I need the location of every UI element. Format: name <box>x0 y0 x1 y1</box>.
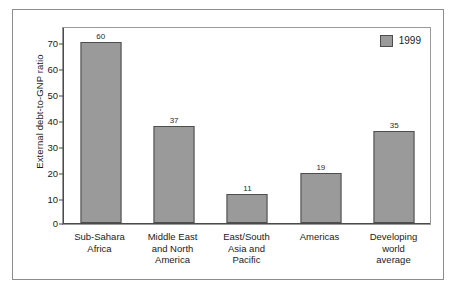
bar-value-label: 35 <box>390 122 399 130</box>
plot-area: 70 60 50 40 30 20 10 0 1999 60 37 <box>62 27 431 225</box>
y-tick-mark-0 <box>59 224 63 225</box>
x-label-line: Sub-Sahara <box>63 231 136 243</box>
bar-developing-world-average[interactable]: 35 <box>374 131 415 223</box>
x-label-line: Developing <box>357 231 430 243</box>
x-axis-line <box>63 223 430 224</box>
x-label-east-south-asia-pacific: East/South Asia and Pacific <box>210 231 283 266</box>
y-tick-label-30: 30 <box>40 143 58 153</box>
x-label-line: Asia and <box>210 243 283 255</box>
y-tick-mark-60 <box>59 69 63 70</box>
y-tick-mark-10 <box>59 200 63 201</box>
bar-sub-sahara-africa[interactable]: 60 <box>80 42 121 223</box>
x-label-line: average <box>357 254 430 266</box>
x-label-line: Americas <box>283 231 356 243</box>
y-tick-mark-50 <box>59 95 63 96</box>
x-label-developing-world-average: Developing world average <box>357 231 430 266</box>
x-label-sub-sahara-africa: Sub-Sahara Africa <box>63 231 136 254</box>
bar-slot: 11 <box>211 26 284 223</box>
x-label-line: Middle East <box>136 231 209 243</box>
y-tick-mark-30 <box>59 148 63 149</box>
bar-value-label: 19 <box>316 164 325 172</box>
y-tick-mark-20 <box>59 174 63 175</box>
bar-value-label: 37 <box>170 117 179 125</box>
bar-value-label: 60 <box>96 33 105 41</box>
x-label-line: and North <box>136 243 209 255</box>
bar-slot: 60 <box>64 26 137 223</box>
bar-slot: 19 <box>284 26 357 223</box>
x-label-line: East/South <box>210 231 283 243</box>
y-tick-label-50: 50 <box>40 91 58 101</box>
x-label-line: America <box>136 254 209 266</box>
y-tick-label-10: 10 <box>40 196 58 206</box>
bar-middle-east-north-america[interactable]: 37 <box>154 126 195 223</box>
bar-east-south-asia-pacific[interactable]: 11 <box>227 194 268 223</box>
x-label-line: Africa <box>63 243 136 255</box>
bar-value-label: 11 <box>243 185 251 193</box>
y-tick-mark-40 <box>59 122 63 123</box>
y-axis-title: External debt-to-GNP ratio <box>34 32 45 192</box>
y-tick-label-20: 20 <box>40 170 58 180</box>
bar-americas[interactable]: 19 <box>300 173 341 223</box>
bar-slot: 37 <box>137 26 210 223</box>
x-label-middle-east-north-america: Middle East and North America <box>136 231 209 266</box>
chart-figure: External debt-to-GNP ratio 70 60 50 40 3… <box>12 9 444 280</box>
y-tick-label-0: 0 <box>40 219 58 229</box>
y-tick-label-70: 70 <box>40 39 58 49</box>
y-tick-label-40: 40 <box>40 117 58 127</box>
y-tick-mark-70 <box>59 43 63 44</box>
x-label-line: world <box>357 243 430 255</box>
x-label-americas: Americas <box>283 231 356 243</box>
y-tick-label-60: 60 <box>40 65 58 75</box>
x-label-line: Pacific <box>210 254 283 266</box>
bar-slot: 35 <box>358 26 431 223</box>
